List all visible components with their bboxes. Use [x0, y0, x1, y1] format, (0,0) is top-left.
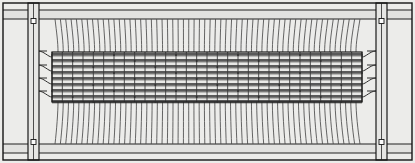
weave-knot	[113, 54, 115, 56]
weave-knot	[175, 90, 177, 92]
weave-knot	[340, 101, 342, 103]
weave-knot	[92, 101, 94, 103]
bolt-hole	[31, 140, 36, 145]
weave-knot	[154, 84, 156, 86]
bolt-hole	[379, 140, 384, 145]
technical-drawing-figure	[0, 0, 415, 163]
weave-knot	[320, 78, 322, 80]
weave-knot	[196, 96, 198, 98]
weave-knot	[92, 66, 94, 68]
weave-knot	[72, 96, 74, 98]
top-rail-band	[3, 10, 412, 19]
weave-knot	[196, 60, 198, 62]
weave-knot	[134, 60, 136, 62]
weave-knot	[278, 66, 280, 68]
weave-knot	[340, 84, 342, 86]
weave-knot	[113, 72, 115, 74]
weave-knot	[72, 60, 74, 62]
weave-knot	[72, 78, 74, 80]
weave-knot	[237, 90, 239, 92]
weave-knot	[154, 101, 156, 103]
bolt-hole	[31, 19, 36, 24]
weave-knot	[154, 66, 156, 68]
weave-knot	[237, 54, 239, 56]
weave-knot	[175, 54, 177, 56]
weave-knot	[237, 72, 239, 74]
mesh-panel-drawing	[0, 0, 415, 163]
weave-knot	[51, 72, 53, 74]
weave-knot	[361, 72, 363, 74]
bolt-hole	[379, 19, 384, 24]
weave-knot	[134, 78, 136, 80]
weave-knot	[134, 96, 136, 98]
weave-knot	[175, 72, 177, 74]
weave-knot	[92, 84, 94, 86]
weave-knot	[113, 90, 115, 92]
weave-knot	[361, 54, 363, 56]
weave-knot	[299, 54, 301, 56]
bottom-rail-band	[3, 144, 412, 153]
weave-knot	[299, 72, 301, 74]
weave-knot	[320, 60, 322, 62]
weave-knot	[216, 101, 218, 103]
weave-knot	[216, 84, 218, 86]
weave-knot	[278, 84, 280, 86]
weave-knot	[340, 66, 342, 68]
weave-knot	[320, 96, 322, 98]
weave-knot	[258, 96, 260, 98]
weave-knot	[258, 78, 260, 80]
weave-knot	[51, 90, 53, 92]
weave-knot	[299, 90, 301, 92]
weave-knot	[361, 90, 363, 92]
weave-knot	[258, 60, 260, 62]
weave-knot	[216, 66, 218, 68]
weave-knot	[51, 54, 53, 56]
weave-knot	[196, 78, 198, 80]
weave-knot	[278, 101, 280, 103]
